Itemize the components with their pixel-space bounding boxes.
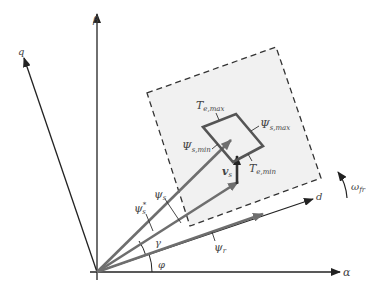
- d-label: d: [316, 191, 322, 202]
- flux-vector-diagram: α β q d ωfr φ γ ψr ψs ψ*s vs Te,max Ψs,m…: [0, 0, 378, 295]
- q-label: q: [18, 46, 24, 57]
- omega-fr-label: ωfr: [351, 181, 366, 194]
- psi-s-leader: [165, 199, 181, 223]
- psi-r-label: ψr: [214, 241, 227, 255]
- phi-label: φ: [158, 259, 165, 270]
- psi-s-vector: [97, 182, 238, 272]
- psi-r-vector: [97, 214, 263, 272]
- q-axis: [24, 58, 97, 272]
- beta-label: β: [92, 14, 99, 25]
- psi-r-leader: [212, 232, 215, 241]
- gamma-label: γ: [155, 237, 161, 248]
- phi-arc: [149, 254, 152, 272]
- alpha-label: α: [343, 266, 351, 279]
- feasible-region: [147, 47, 321, 226]
- psi-s-ref-label: ψ*s: [134, 201, 147, 216]
- psi-s-label: ψs: [154, 188, 167, 202]
- rotation-arrow: [338, 172, 347, 198]
